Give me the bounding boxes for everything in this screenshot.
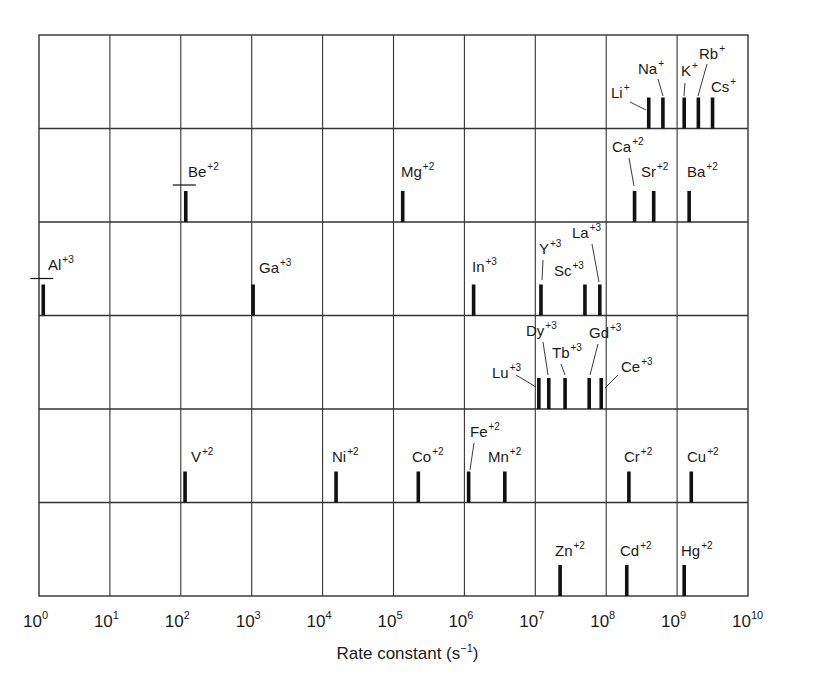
- x-tick-label: 107: [519, 609, 544, 631]
- ion-label-lu: Lu+3: [492, 362, 522, 381]
- ion-label-gd: Gd+3: [589, 322, 622, 341]
- x-tick-label: 103: [236, 609, 261, 631]
- ion-label-zn: Zn+2: [555, 540, 585, 559]
- leader-line-fe: [470, 443, 474, 470]
- ion-label-cd: Cd+2: [620, 540, 652, 559]
- ion-label-mg: Mg+2: [401, 161, 435, 180]
- bar-lu: [537, 378, 541, 409]
- leader-line-ca: [629, 158, 634, 186]
- rate-bars: [30, 98, 714, 597]
- bar-zn: [558, 565, 562, 596]
- bar-sr: [652, 191, 656, 222]
- bar-in: [472, 285, 476, 316]
- bar-cr: [627, 472, 631, 503]
- ion-label-ce: Ce+3: [621, 356, 653, 375]
- bar-ba: [687, 191, 691, 222]
- ion-label-na: Na+: [638, 58, 664, 77]
- ion-label-dy: Dy+3: [526, 320, 557, 339]
- x-tick-label: 105: [378, 609, 403, 631]
- leader-line-dy: [543, 342, 548, 375]
- chart-grid: [39, 35, 748, 596]
- leader-line-ce: [605, 375, 618, 388]
- ion-label-be: Be+2: [188, 161, 219, 180]
- bar-cd: [625, 565, 629, 596]
- ion-label-li: Li+: [611, 82, 630, 101]
- leader-line-y: [542, 260, 543, 280]
- bar-be: [184, 191, 188, 222]
- x-tick-label: 100: [23, 609, 48, 631]
- bar-v: [183, 472, 187, 503]
- bar-ce: [599, 378, 603, 409]
- bar-cu: [689, 472, 693, 503]
- bar-y: [539, 285, 543, 316]
- ion-label-fe: Fe+2: [470, 421, 500, 440]
- bar-cs: [711, 98, 715, 129]
- bar-na: [661, 98, 665, 129]
- bar-ni: [334, 472, 338, 503]
- ion-label-la: La+3: [572, 222, 602, 241]
- ion-label-v: V+2: [191, 446, 214, 465]
- leader-line-na: [658, 79, 663, 96]
- bar-mg: [401, 191, 405, 222]
- bar-k: [682, 98, 686, 129]
- ion-label-al: Al+3: [48, 254, 74, 273]
- bar-hg: [682, 565, 686, 596]
- ion-label-cu: Cu+2: [687, 446, 719, 465]
- bar-gd: [587, 378, 591, 409]
- ion-label-in: In+3: [472, 256, 497, 275]
- ion-label-y: Y+3: [539, 238, 562, 257]
- ion-label-hg: Hg+2: [681, 540, 713, 559]
- bar-tb: [563, 378, 567, 409]
- bar-al: [41, 285, 45, 316]
- bar-co: [417, 472, 421, 503]
- x-tick-label: 1010: [732, 609, 763, 631]
- x-axis-tick-labels: 1001011021031041051061071081091010: [23, 609, 763, 631]
- ion-label-tb: Tb+3: [552, 342, 582, 361]
- leader-line-rb: [698, 64, 707, 96]
- ion-label-ga: Ga+3: [259, 257, 292, 276]
- bar-ga: [251, 285, 255, 316]
- bar-mn: [503, 472, 507, 503]
- ion-label-k: K+: [681, 60, 698, 79]
- ion-label-ca: Ca+2: [612, 136, 644, 155]
- ion-label-sc: Sc+3: [554, 260, 584, 279]
- leader-line-k: [684, 83, 685, 96]
- ion-labels: Li+Na+K+Rb+Cs+Be+2Mg+2Ca+2Sr+2Ba+2Al+3Ga…: [48, 43, 736, 559]
- leader-line-la: [592, 244, 599, 282]
- bar-sc: [583, 285, 587, 316]
- x-tick-label: 104: [307, 609, 332, 631]
- ion-rate-constant-chart: Li+Na+K+Rb+Cs+Be+2Mg+2Ca+2Sr+2Ba+2Al+3Ga…: [0, 0, 815, 690]
- leader-line-lu: [516, 375, 536, 387]
- bar-ca: [633, 191, 637, 222]
- x-tick-label: 108: [590, 609, 615, 631]
- bar-fe: [467, 472, 471, 503]
- bar-la: [598, 285, 602, 316]
- ion-label-ba: Ba+2: [687, 161, 718, 180]
- x-axis-title: Rate constant (s−1): [0, 642, 815, 664]
- bar-rb: [697, 98, 701, 129]
- x-tick-label: 102: [165, 609, 190, 631]
- bar-li: [647, 98, 651, 129]
- leader-line-li: [630, 102, 646, 110]
- leader-line-gd: [590, 344, 598, 375]
- bar-dy: [547, 378, 551, 409]
- ion-label-ni: Ni+2: [332, 446, 359, 465]
- leader-line-tb: [561, 364, 565, 375]
- ion-label-mn: Mn+2: [488, 446, 522, 465]
- ion-label-co: Co+2: [412, 446, 444, 465]
- x-tick-label: 109: [661, 609, 686, 631]
- ion-label-rb: Rb+: [699, 43, 725, 62]
- ion-label-cr: Cr+2: [624, 446, 653, 465]
- x-tick-label: 106: [448, 609, 473, 631]
- x-tick-label: 101: [94, 609, 119, 631]
- ion-label-sr: Sr+2: [641, 161, 669, 180]
- ion-label-cs: Cs+: [711, 76, 736, 95]
